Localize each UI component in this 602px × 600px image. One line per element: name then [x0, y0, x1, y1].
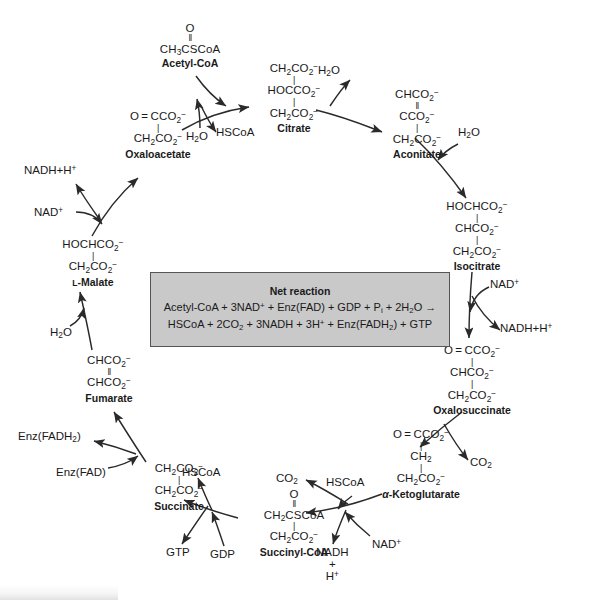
- cofactor-co2-oxalosuccinate: CO2: [470, 456, 492, 471]
- label-citrate: Citrate: [238, 123, 350, 135]
- metabolite-l-malate: HOCHCO2−|CH2CO2− L-Malate: [34, 238, 152, 288]
- cofactor-nad-malate: NAD+: [34, 206, 63, 218]
- structure-alpha-ketoglutarate: O = CCO2−|CH2|CH2CO2−: [362, 428, 480, 487]
- cofactor-h2o-isocitrate: H2O: [458, 126, 480, 141]
- label-aconitate: Aconitate: [366, 149, 468, 161]
- cofactor-nad-akg: NAD+: [372, 538, 401, 550]
- metabolite-acetyl-coa: O‖CH3CSCoA Acetyl-CoA: [126, 22, 254, 70]
- cofactor-h2o-aconitate: H2O: [186, 130, 208, 145]
- metabolite-alpha-ketoglutarate: O = CCO2−|CH2|CH2CO2− α-Ketoglutarate: [362, 428, 480, 500]
- cofactor-nad-isocitrate: NAD+: [490, 278, 519, 290]
- cofactor-hscoa-succinate: HSCoA: [182, 466, 220, 478]
- cofactor-gdp: GDP: [210, 548, 235, 560]
- cofactor-enz-fad: Enz(FAD): [56, 466, 106, 478]
- label-oxaloacetate: Oxaloacetate: [98, 149, 218, 161]
- cofactor-nadh-isocitrate: NADH+H+: [500, 322, 552, 334]
- citric-acid-cycle-diagram: O‖CH3CSCoA Acetyl-CoA CH2CO2−|HOCCO2−|CH…: [0, 0, 602, 600]
- cofactor-gtp: GTP: [166, 546, 190, 558]
- label-alpha-ketoglutarate: α-Ketoglutarate: [362, 489, 480, 501]
- cofactor-nadh-malate: NADH+H+: [24, 164, 76, 176]
- cofactor-nadh-akg: NADH+H+: [316, 546, 349, 582]
- label-succinate: Succinate: [126, 501, 232, 513]
- structure-acetyl-coa: O‖CH3CSCoA: [126, 22, 254, 57]
- structure-aconitate: CHCO2−‖CCO2−|CH2CO2−: [366, 88, 468, 148]
- cofactor-h2o-citrate: H2O: [318, 64, 340, 79]
- metabolite-oxalosuccinate: O = CCO2−|CHCO2−|CH2CO2− Oxalosuccinate: [410, 344, 534, 417]
- metabolite-fumarate: CHCO2−‖CHCO2− Fumarate: [56, 354, 162, 404]
- structure-isocitrate: HOCHCO2−|CHCO2−|CH2CO2−: [420, 200, 534, 260]
- cofactor-h2o-fumarate: H2O: [50, 326, 72, 341]
- label-oxalosuccinate: Oxalosuccinate: [410, 405, 534, 417]
- net-reaction-line-2: HSCoA + 2CO2 + 3NADH + 3H+ + Enz(FADH2) …: [168, 317, 432, 334]
- metabolite-isocitrate: HOCHCO2−|CHCO2−|CH2CO2− Isocitrate: [420, 200, 534, 273]
- net-reaction-line-1: Acetyl-CoA + 3NAD+ + Enz(FAD) + GDP + Pi…: [164, 300, 437, 317]
- structure-fumarate: CHCO2−‖CHCO2−: [56, 354, 162, 391]
- scan-edge-artifact: [0, 585, 118, 600]
- metabolite-aconitate: CHCO2−‖CCO2−|CH2CO2− Aconitate: [366, 88, 468, 161]
- label-fumarate: Fumarate: [56, 393, 162, 405]
- cofactor-co2-akg: CO2: [276, 472, 298, 487]
- cofactor-enz-fadh2: Enz(FADH2): [18, 430, 81, 445]
- cofactor-hscoa-citrate: HSCoA: [216, 126, 254, 138]
- label-l-malate: L-Malate: [34, 277, 152, 289]
- structure-l-malate: HOCHCO2−|CH2CO2−: [34, 238, 152, 275]
- structure-oxalosuccinate: O = CCO2−|CHCO2−|CH2CO2−: [410, 344, 534, 404]
- structure-succinyl-coa: O‖CH2CSCoA|CH2CO2−: [238, 488, 350, 545]
- net-reaction-box: Net reaction Acetyl-CoA + 3NAD+ + Enz(FA…: [150, 272, 450, 347]
- cofactor-hscoa-akg: HSCoA: [326, 476, 364, 488]
- label-acetyl-coa: Acetyl-CoA: [126, 58, 254, 70]
- net-reaction-heading: Net reaction: [270, 285, 331, 297]
